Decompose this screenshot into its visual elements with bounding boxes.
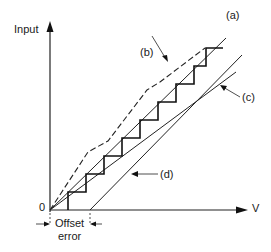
x-axis-arrow-icon <box>236 207 248 214</box>
y-axis-arrow-icon <box>47 21 54 32</box>
curve-c-gain-line <box>50 72 236 210</box>
label-b-arrow-icon <box>162 55 168 62</box>
offset-arrow-left-icon <box>44 222 50 227</box>
curve-c-label: (c) <box>242 92 255 103</box>
staircase-diagonals <box>50 48 206 210</box>
offset-label-line1: Offset <box>55 218 84 229</box>
offset-label-line2: error <box>58 231 81 242</box>
label-d-arrow-icon <box>131 171 138 177</box>
curve-b-dashed <box>50 48 205 210</box>
label-c-leader <box>223 87 240 97</box>
origin-label: 0 <box>39 202 45 213</box>
offset-arrow-right-icon <box>90 222 96 227</box>
curve-a-label: (a) <box>226 10 239 21</box>
curve-b-label: (b) <box>140 47 153 58</box>
y-axis-label: Input <box>14 24 38 35</box>
curve-d-label: (d) <box>160 169 173 180</box>
curve-a-ideal-line <box>50 38 226 210</box>
label-c-arrow-icon <box>220 85 227 91</box>
transfer-diagram <box>0 0 271 252</box>
x-axis-label: V <box>252 203 259 214</box>
curve-d-offset-line <box>90 55 242 210</box>
staircase <box>68 48 223 210</box>
label-b-leader <box>152 36 166 59</box>
